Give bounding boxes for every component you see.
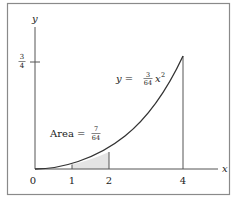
y-tick-label-fraction: 3 4 bbox=[19, 53, 26, 70]
y-axis-label: y bbox=[31, 13, 38, 24]
shaded-area-region bbox=[72, 152, 109, 169]
curve-label-prefix: y = bbox=[115, 73, 133, 84]
x-axis-label: x bbox=[222, 163, 228, 174]
curve-equation-label: y = 3 64 x 2 bbox=[115, 71, 165, 88]
figure-frame bbox=[8, 4, 230, 195]
x-tick-label-2: 2 bbox=[106, 175, 112, 186]
curve-exponent: 2 bbox=[161, 71, 165, 79]
curve-coef-numerator: 3 bbox=[146, 71, 150, 79]
x-tick-label-1: 1 bbox=[69, 175, 75, 186]
curve-coef-denominator: 64 bbox=[144, 79, 152, 87]
figure: y x 0 1 2 4 3 4 y = 3 64 x 2 Area = 7 64 bbox=[0, 0, 235, 208]
area-numerator: 7 bbox=[94, 125, 98, 133]
area-annotation-label: Area = 7 64 bbox=[49, 125, 101, 142]
y-tick-denominator: 4 bbox=[20, 62, 25, 70]
x-tick-label-0: 0 bbox=[30, 175, 36, 186]
area-denominator: 64 bbox=[92, 134, 100, 142]
y-tick-numerator: 3 bbox=[20, 53, 24, 61]
x-tick-label-4: 4 bbox=[180, 175, 186, 186]
area-label-prefix: Area = bbox=[49, 128, 85, 139]
